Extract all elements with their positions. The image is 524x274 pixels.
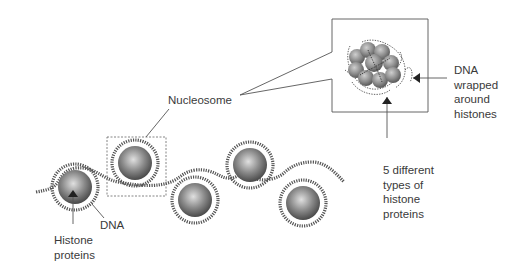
nucleosome-label: Nucleosome <box>168 93 232 108</box>
five-types-line-1: 5 different <box>383 163 434 178</box>
histone-line-2: proteins <box>54 248 95 263</box>
dna-wrapped-line-1: DNA <box>454 63 498 78</box>
five-types-line-2: types of <box>383 178 434 193</box>
histone-octamer <box>345 40 412 94</box>
five-types-line-3: histone <box>383 192 434 207</box>
dna-wrapped-label: DNA wrapped around histones <box>454 63 498 121</box>
histone-proteins-label: Histone proteins <box>54 233 95 262</box>
five-types-label: 5 different types of histone proteins <box>383 163 434 221</box>
nucleosome-diagram: Nucleosome DNA wrapped around histones 5… <box>0 0 524 274</box>
dna-label: DNA <box>100 218 124 233</box>
histone-line-1: Histone <box>54 233 95 248</box>
dna-wrapped-line-2: wrapped <box>454 78 498 93</box>
dna-wrapped-line-4: histones <box>454 107 498 122</box>
five-types-line-4: proteins <box>383 207 434 222</box>
arrowhead-up <box>382 97 392 104</box>
arrowhead-left <box>413 73 420 83</box>
dna-wrapped-line-3: around <box>454 92 498 107</box>
